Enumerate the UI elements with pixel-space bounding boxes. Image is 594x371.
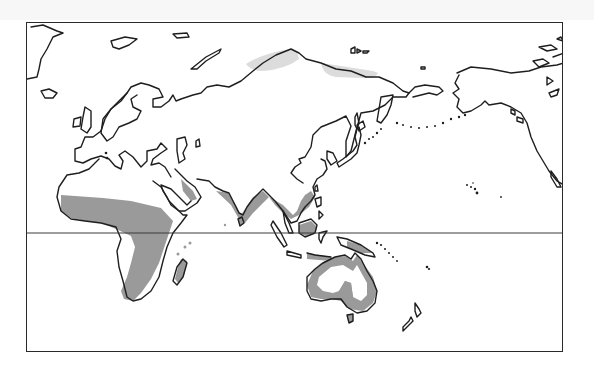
coast-svalbard [111,37,137,49]
coast-eurasia-north [101,49,409,183]
coast-sumatra [271,221,287,247]
coast-korea [327,151,337,165]
range-siberia-west [246,49,299,71]
coast-franz-josef [173,33,189,38]
world-map-frame [26,22,563,352]
range-australia [307,255,377,311]
top-margin-band [0,0,594,20]
primary-range-regions [61,179,377,323]
world-map-svg [27,23,563,352]
coastlines [27,25,563,331]
coast-europe-south [75,131,171,177]
coast-canada-islands [533,37,563,97]
range-se-asia [269,191,315,219]
coast-south-asia [197,159,327,223]
coast-wrangel [421,67,425,69]
range-africa [61,195,173,301]
coast-new-siberian-islands [351,47,369,53]
coast-britain [81,107,91,133]
coast-novaya-zemlya [191,49,221,69]
coast-arabia [153,169,201,211]
coast-iceland [41,89,57,98]
coast-philippines [315,197,323,219]
coast-new-zealand-north [415,303,421,317]
coast-new-zealand-south [403,317,413,331]
coast-greenland [27,25,63,79]
coast-caspian [177,137,187,163]
coast-chukotka [409,85,443,97]
coast-ireland [73,117,81,127]
coast-taiwan [315,185,318,191]
coast-java [287,251,301,258]
coast-aral [196,139,200,147]
